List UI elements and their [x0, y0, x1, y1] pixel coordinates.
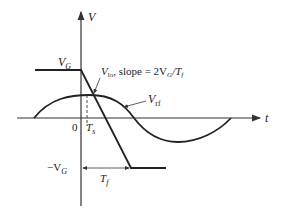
tf-label: Tf — [100, 172, 110, 187]
v-axis-label: V — [88, 10, 97, 24]
vlo-slope-label: Vlo, slope = 2VG/Tf — [101, 65, 184, 79]
vrf-leader — [124, 101, 146, 107]
t-axis-label: t — [265, 111, 269, 125]
vg-positive-label: VG — [58, 55, 71, 71]
vlo-waveform — [35, 70, 166, 168]
vrf-label: Vrf — [148, 92, 161, 108]
ts-label: Ts — [86, 121, 95, 136]
origin-label: 0 — [72, 121, 78, 133]
vg-negative-label: −VG — [47, 161, 67, 176]
vlo-leader — [94, 78, 100, 93]
waveform-diagram: V t 0 VG −VG Vlo, slope = 2VG/Tf Vrf Ts … — [0, 0, 283, 219]
